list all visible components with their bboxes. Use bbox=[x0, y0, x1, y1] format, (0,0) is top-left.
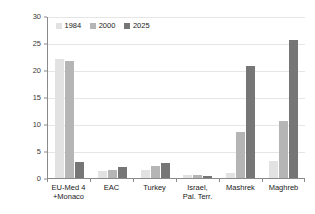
bar-group bbox=[176, 17, 219, 178]
bar bbox=[98, 171, 107, 178]
bar bbox=[65, 61, 74, 178]
bar bbox=[193, 175, 202, 178]
y-tick-label: 0 bbox=[37, 175, 41, 183]
x-tick-label-line2: Pal. Terr. bbox=[177, 192, 218, 201]
legend-label: 2025 bbox=[133, 22, 150, 30]
bar bbox=[246, 66, 255, 178]
bar bbox=[203, 176, 212, 178]
legend-item: 1984 bbox=[56, 22, 81, 30]
bar-groups bbox=[48, 17, 305, 178]
bar-group bbox=[48, 17, 91, 178]
legend-swatch-icon bbox=[90, 23, 96, 29]
bar bbox=[141, 170, 150, 178]
x-tick-label: Maghreb bbox=[262, 183, 305, 201]
bar bbox=[279, 121, 288, 178]
x-tick-label: EAC bbox=[90, 183, 133, 201]
x-axis-labels: EU-Med 4+MonacoEACTurkeyIsrael,Pal. Terr… bbox=[47, 183, 305, 201]
legend-label: 1984 bbox=[65, 22, 82, 30]
bar-group bbox=[134, 17, 177, 178]
y-tick-label: 30 bbox=[33, 13, 41, 21]
x-tick-mark bbox=[262, 179, 263, 182]
x-tick-label-line1: Mashrek bbox=[226, 183, 255, 192]
bar-group bbox=[262, 17, 305, 178]
bar bbox=[118, 167, 127, 178]
bar bbox=[183, 175, 192, 178]
bar bbox=[289, 40, 298, 178]
x-tick-label: Israel,Pal. Terr. bbox=[176, 183, 219, 201]
bar bbox=[75, 162, 84, 178]
x-tick-label: Turkey bbox=[133, 183, 176, 201]
bar bbox=[269, 161, 278, 178]
y-tick-label: 10 bbox=[33, 121, 41, 129]
legend-swatch-icon bbox=[56, 23, 62, 29]
x-tick-mark bbox=[176, 179, 177, 182]
x-tick-label-line1: Israel, bbox=[187, 183, 207, 192]
plot-area bbox=[47, 17, 305, 179]
bar-group bbox=[219, 17, 262, 178]
x-tick-mark bbox=[304, 179, 305, 182]
x-tick-label-line1: EAC bbox=[104, 183, 119, 192]
legend-item: 2000 bbox=[90, 22, 115, 30]
x-tick-mark bbox=[47, 179, 48, 182]
bar-chart: Nb of road deaths in thousands 051015202… bbox=[0, 0, 315, 214]
bar bbox=[236, 132, 245, 178]
x-tick-label: Mashrek bbox=[219, 183, 262, 201]
x-tick-label-line2: +Monaco bbox=[48, 192, 89, 201]
legend-item: 2025 bbox=[124, 22, 149, 30]
y-tick-label: 25 bbox=[33, 40, 41, 48]
x-tick-label-line1: Maghreb bbox=[269, 183, 299, 192]
legend-label: 2000 bbox=[99, 22, 116, 30]
x-tick-mark bbox=[219, 179, 220, 182]
legend: 198420002025 bbox=[56, 22, 150, 30]
bar-group bbox=[91, 17, 134, 178]
y-tick-label: 5 bbox=[37, 148, 41, 156]
legend-swatch-icon bbox=[124, 23, 130, 29]
x-tick-label-line1: Turkey bbox=[143, 183, 166, 192]
x-tick-mark bbox=[90, 179, 91, 182]
bar bbox=[151, 166, 160, 178]
x-tick-label: EU-Med 4+Monaco bbox=[47, 183, 90, 201]
x-tick-mark bbox=[133, 179, 134, 182]
x-tick-label-line1: EU-Med 4 bbox=[52, 183, 86, 192]
bar bbox=[108, 170, 117, 178]
bar bbox=[55, 59, 64, 178]
bar bbox=[226, 173, 235, 178]
bar bbox=[161, 163, 170, 178]
y-tick-label: 15 bbox=[33, 94, 41, 102]
y-tick-label: 20 bbox=[33, 67, 41, 75]
y-axis-ticks: 051015202530 bbox=[0, 17, 47, 179]
